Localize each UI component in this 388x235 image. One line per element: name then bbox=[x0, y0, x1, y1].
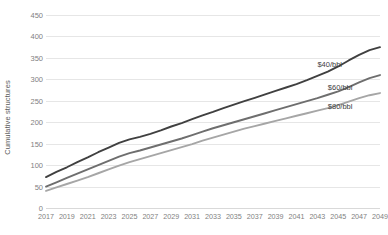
y-axis-tick-label: 350 bbox=[30, 53, 43, 62]
x-axis-tick-label: 2039 bbox=[268, 212, 284, 221]
gridline bbox=[46, 208, 380, 209]
x-axis-tick-label: 2047 bbox=[351, 212, 367, 221]
x-axis-tick-label: 2023 bbox=[101, 212, 117, 221]
x-axis-tick-label: 2037 bbox=[247, 212, 263, 221]
y-axis-tick-labels: 050100150200250300350400450 bbox=[0, 0, 46, 235]
series-line-60bbl bbox=[46, 75, 380, 187]
series-lines bbox=[46, 15, 380, 208]
y-axis-tick-label: 250 bbox=[30, 96, 43, 105]
x-axis-tick-label: 2049 bbox=[372, 212, 388, 221]
y-axis-tick-label: 200 bbox=[30, 118, 43, 127]
x-axis-tick-label: 2041 bbox=[289, 212, 305, 221]
x-axis-tick-label: 2029 bbox=[163, 212, 179, 221]
x-axis-tick-label: 2031 bbox=[184, 212, 200, 221]
y-axis-tick-label: 400 bbox=[30, 32, 43, 41]
x-axis-tick-label: 2045 bbox=[330, 212, 346, 221]
x-axis-tick-label: 2025 bbox=[122, 212, 138, 221]
y-axis-tick-label: 150 bbox=[30, 139, 43, 148]
x-axis-tick-label: 2027 bbox=[142, 212, 158, 221]
x-axis-tick-label: 2033 bbox=[205, 212, 221, 221]
y-axis-tick-label: 50 bbox=[35, 182, 43, 191]
x-axis-tick-label: 2019 bbox=[59, 212, 75, 221]
x-axis-tick-label: 2035 bbox=[226, 212, 242, 221]
x-axis-tick-label: 2021 bbox=[80, 212, 96, 221]
series-label-80bbl: $80/bbl bbox=[328, 102, 353, 111]
series-label-60bbl: $60/bbl bbox=[328, 83, 353, 92]
x-axis-tick-label: 2017 bbox=[38, 212, 54, 221]
x-axis-tick-labels: 2017201920212023202520272029203120332035… bbox=[46, 212, 380, 232]
y-axis-tick-label: 300 bbox=[30, 75, 43, 84]
plot-area bbox=[46, 15, 380, 208]
series-label-40bbl: $40/bbl bbox=[317, 60, 342, 69]
x-axis-tick-label: 2043 bbox=[309, 212, 325, 221]
y-axis-tick-label: 450 bbox=[30, 11, 43, 20]
y-axis-tick-label: 100 bbox=[30, 161, 43, 170]
